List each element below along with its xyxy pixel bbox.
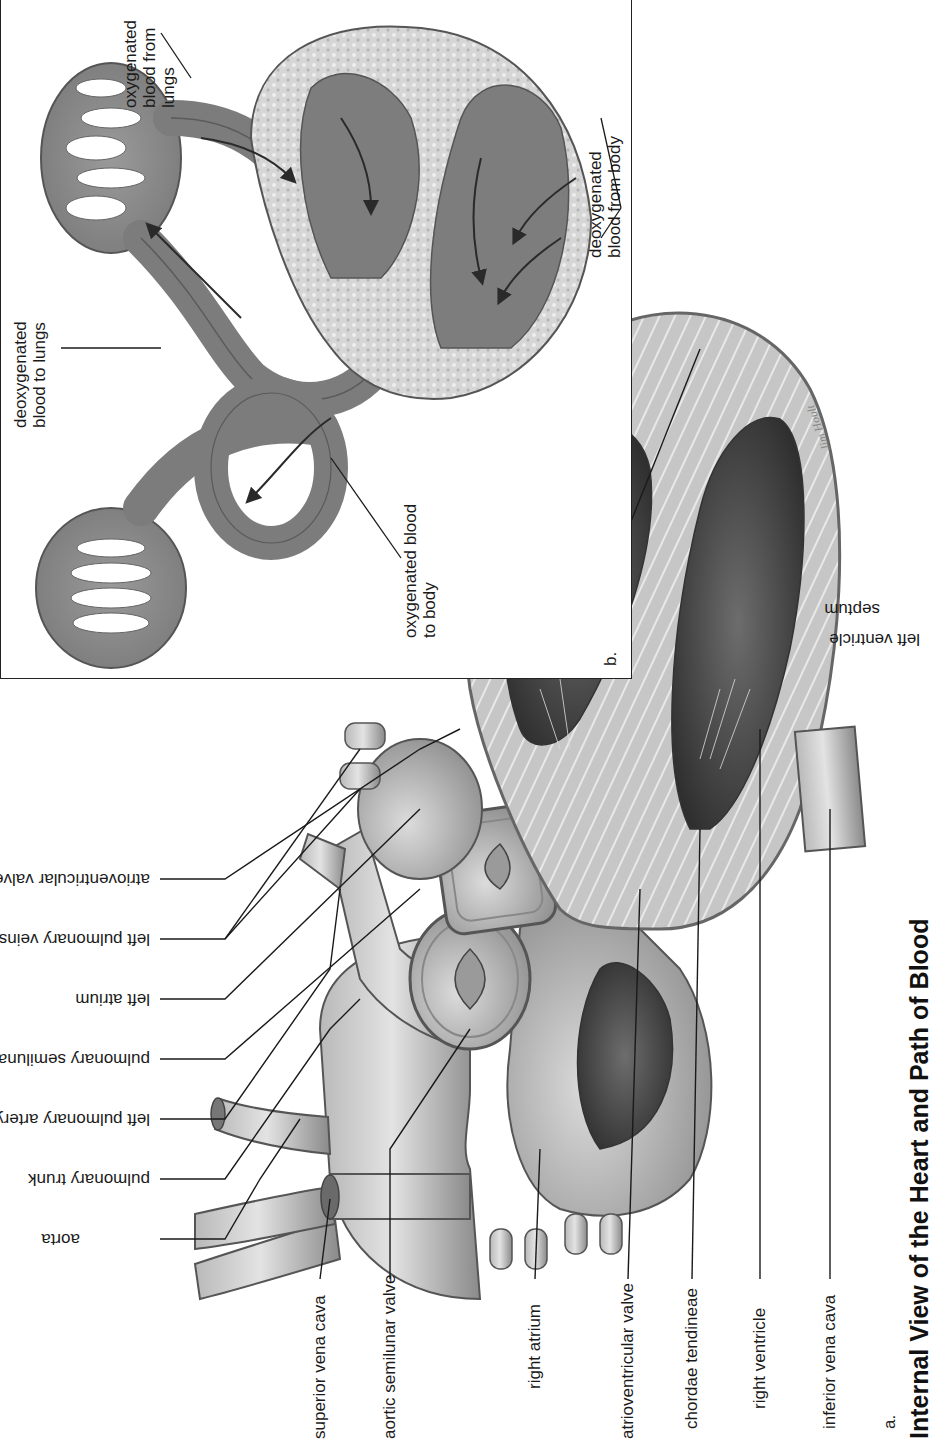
label-line: oxygenated blood	[401, 504, 420, 638]
label-line: to body	[420, 504, 439, 638]
heart-body-b	[251, 26, 591, 398]
label-atrioventricular-valve-left: atrioventricular valve	[0, 870, 150, 889]
lung-capillaries-bottom	[36, 508, 186, 668]
label-left-pulmonary-veins: left pulmonary veins	[0, 930, 150, 949]
panel-b-box: deoxygenated blood to lungs oxygenated b…	[0, 0, 632, 679]
right-atrium-shape	[507, 892, 711, 1216]
label-line: blood to lungs	[30, 321, 49, 428]
label-line: oxygenated	[121, 20, 140, 108]
panel-b-letter: b.	[601, 652, 621, 666]
label-line: blood from	[140, 20, 159, 108]
label-line: blood from body	[605, 136, 624, 258]
label-right-atrium: right atrium	[525, 1304, 544, 1389]
label-aorta: aorta	[41, 1230, 80, 1249]
figure-title: Internal View of the Heart and Path of B…	[905, 919, 934, 1439]
label-left-atrium: left atrium	[75, 990, 150, 1009]
label-right-ventricle: right ventricle	[750, 1308, 769, 1409]
label-pulmonary-trunk: pulmonary trunk	[28, 1170, 150, 1189]
label-superior-vena-cava: superior vena cava	[310, 1295, 329, 1439]
superior-vena-cava-shape	[321, 1174, 470, 1219]
label-oxygenated-blood-to-body: oxygenated blood to body	[401, 504, 439, 638]
label-line: deoxygenated	[11, 321, 30, 428]
panel-a-letter: a.	[880, 1415, 900, 1429]
label-left-pulmonary-artery: left pulmonary artery	[0, 1110, 150, 1129]
label-line: lungs	[159, 20, 178, 108]
label-septum: septum	[824, 600, 880, 619]
label-left-ventricle: left ventricle	[829, 630, 920, 649]
label-chordae-tendineae: chordae tendineae	[682, 1288, 701, 1429]
label-oxygenated-blood-from-lungs: oxygenated blood from lungs	[121, 20, 178, 108]
label-inferior-vena-cava: inferior vena cava	[820, 1295, 839, 1429]
label-deoxygenated-blood-from-body: deoxygenated blood from body	[586, 136, 624, 258]
vein-stubs	[490, 1214, 622, 1269]
label-atrioventricular-valve-right: atrioventricular valve	[618, 1283, 637, 1439]
label-line: deoxygenated	[586, 136, 605, 258]
label-aortic-semilunar-valve: aortic semilunar valve	[380, 1275, 399, 1439]
figure-stage: Jim Hoult superior vena c	[0, 0, 944, 1449]
label-pulmonary-semilunar-valve: pulmonary semilunar valve	[0, 1050, 150, 1069]
circulation-path-illustration	[1, 0, 631, 678]
label-deoxygenated-blood-to-lungs: deoxygenated blood to lungs	[11, 321, 49, 428]
